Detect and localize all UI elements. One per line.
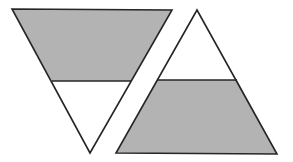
upright-triangle-shaded-trapezoid <box>116 80 277 154</box>
inverted-triangle-shaded-trapezoid <box>12 9 172 81</box>
triangles-diagram <box>0 0 293 162</box>
